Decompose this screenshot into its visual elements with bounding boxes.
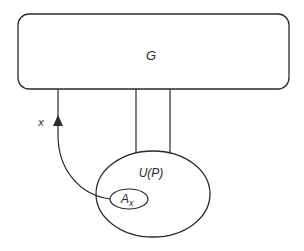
inner-set-label: Ax bbox=[120, 192, 134, 208]
map-arrow: x bbox=[37, 89, 110, 199]
outer-set-label: U(P) bbox=[139, 166, 164, 180]
inner-set: Ax bbox=[110, 189, 148, 209]
diagram-canvas: G U(P) Ax x bbox=[0, 0, 304, 251]
group-box-label: G bbox=[146, 48, 156, 63]
arrowhead-icon bbox=[53, 115, 63, 126]
arrow-label: x bbox=[37, 116, 44, 128]
group-box: G bbox=[18, 14, 289, 89]
